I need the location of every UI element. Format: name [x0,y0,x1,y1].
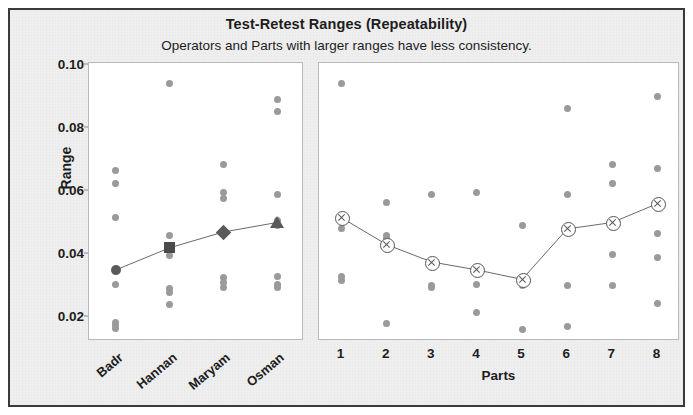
data-point [654,93,661,100]
x-tick-label: 8 [653,346,661,361]
mean-marker [216,224,232,240]
data-point [428,191,435,198]
data-point [166,80,173,87]
data-point [609,251,616,258]
data-point [112,214,119,221]
data-point [654,254,661,261]
plot-area-parts [319,63,678,339]
data-point [473,309,480,316]
plot-area-operators [89,63,302,339]
data-point [383,199,390,206]
mean-marker [516,273,531,288]
x-tick-label: 2 [382,346,390,361]
chart-subtitle: Operators and Parts with larger ranges h… [10,38,683,53]
y-tick-label: 0.06 [36,182,84,197]
mean-connector-line [319,63,680,341]
data-point [428,284,435,291]
x-tick-label: 7 [608,346,616,361]
data-point [274,96,281,103]
data-point [383,320,390,327]
mean-marker [425,256,440,271]
chart-title: Test-Retest Ranges (Repeatability) [10,16,683,32]
data-point [274,273,281,280]
chart-screenshot: Test-Retest Ranges (Repeatability) Opera… [0,0,693,415]
mean-connector-line [89,63,304,341]
mean-marker [561,222,576,237]
panel-parts [318,62,679,340]
y-tick-label: 0.04 [36,246,84,261]
data-point [220,195,227,202]
data-point [274,284,281,291]
data-point [654,230,661,237]
data-point [220,161,227,168]
mean-marker [380,238,395,253]
x-axis-title-parts: Parts [482,368,516,383]
data-point [338,80,345,87]
x-tick-label: 4 [472,346,480,361]
data-point [166,301,173,308]
x-tick-label: Hannan [121,350,180,403]
data-point [609,161,616,168]
mean-marker [111,265,121,275]
data-point [338,277,345,284]
x-tick-label: 1 [337,346,345,361]
x-tick-label: 5 [517,346,525,361]
mean-marker [270,216,284,228]
data-point [220,284,227,291]
mean-marker [335,211,350,226]
data-point [609,282,616,289]
mean-marker [164,242,175,253]
mean-marker [651,197,666,212]
data-point [519,326,526,333]
data-point [274,191,281,198]
mean-marker [606,216,621,231]
data-point [112,180,119,187]
data-point [564,323,571,330]
y-tick-label: 0.08 [36,119,84,134]
x-tick-label: Maryam [175,350,234,403]
data-point [473,189,480,196]
x-tick-label: 6 [562,346,570,361]
data-point [112,167,119,174]
data-point [473,281,480,288]
y-tick-label: 0.10 [36,56,84,71]
data-point [564,105,571,112]
chart-frame: Test-Retest Ranges (Repeatability) Opera… [8,8,685,407]
x-tick-label: Osman [228,350,287,403]
mean-marker [470,263,485,278]
data-point [274,108,281,115]
data-point [564,282,571,289]
data-point [112,325,119,332]
y-axis-ticks: 0.020.040.060.080.10 [32,10,84,409]
x-tick-label: 3 [427,346,435,361]
data-point [654,300,661,307]
data-point [112,281,119,288]
data-point [519,222,526,229]
data-point [166,289,173,296]
data-point [654,165,661,172]
y-tick-label: 0.02 [36,309,84,324]
panel-operators [88,62,303,340]
data-point [166,232,173,239]
data-point [338,225,345,232]
data-point [564,191,571,198]
data-point [609,180,616,187]
